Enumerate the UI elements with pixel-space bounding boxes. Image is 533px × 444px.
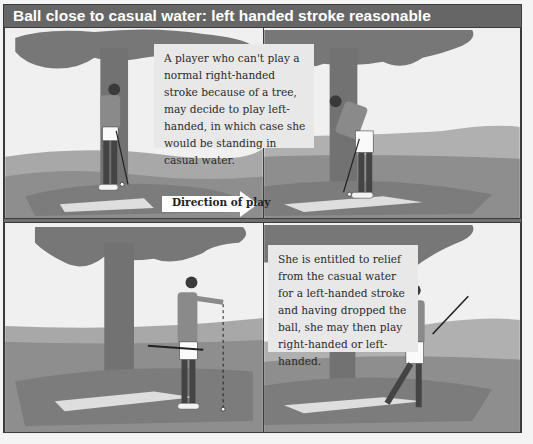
figure-title: Ball close to casual water: left handed … bbox=[4, 5, 521, 27]
direction-of-play-arrow: Direction of play bbox=[162, 191, 258, 217]
caption-bottom: She is entitled to relief from the casua… bbox=[268, 245, 418, 352]
direction-of-play-label: Direction of play bbox=[172, 196, 270, 208]
caption-top: A player who can't play a normal right-h… bbox=[154, 44, 314, 148]
panel-bottom-left bbox=[4, 222, 264, 433]
golf-scene-illustration bbox=[5, 223, 263, 432]
